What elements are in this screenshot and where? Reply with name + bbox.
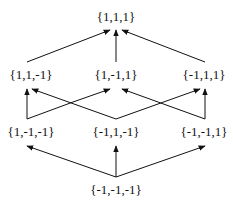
node-l2-mid: {1,-1,1}	[95, 67, 138, 82]
edge-l1left-l2mid-base	[27, 102, 73, 119]
edges-layer	[0, 0, 233, 204]
node-l1-left: {1,-1,-1}	[7, 124, 54, 139]
edge-bottom-l1left	[27, 146, 116, 177]
edge-l2left-top	[27, 30, 110, 62]
node-l1-right: {-1,-1,1}	[180, 124, 227, 139]
edge-l1mid-l2right	[116, 89, 200, 119]
edge-l2right-top	[122, 30, 205, 62]
node-l2-right: {-1,1,1}	[183, 67, 226, 82]
edge-l1left-l2mid	[73, 89, 110, 102]
node-bottom: {-1,-1,-1}	[90, 182, 141, 197]
edge-l1mid-l2left	[32, 89, 116, 119]
edge-bottom-l1right	[116, 146, 205, 177]
node-top: {1,1,1}	[97, 9, 135, 24]
node-l2-left: {1,1,-1}	[10, 67, 53, 82]
node-l1-mid: {-1,1,-1}	[92, 124, 139, 139]
edge-l1right-l2mid	[122, 89, 205, 119]
